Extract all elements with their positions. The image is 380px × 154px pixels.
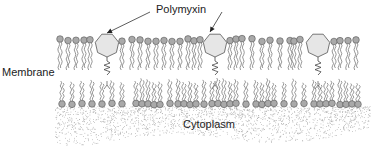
stipple-dot [286, 141, 287, 142]
stipple-dot [101, 134, 102, 135]
stipple-dot [91, 123, 92, 124]
stipple-dot [136, 130, 137, 131]
stipple-dot [208, 108, 209, 109]
polymyxin-ring [306, 34, 329, 57]
lipid-tail [348, 44, 350, 68]
stipple-dot [76, 136, 77, 137]
stipple-dot [249, 112, 250, 113]
stipple-dot [334, 111, 335, 112]
stipple-dot [279, 106, 280, 107]
stipple-dot [309, 122, 310, 123]
stipple-dot [74, 126, 75, 127]
stipple-dot [210, 111, 211, 112]
stipple-dot [369, 109, 370, 110]
stipple-dot [363, 127, 364, 128]
stipple-dot [298, 125, 299, 126]
stipple-dot [180, 109, 181, 110]
stipple-dot [260, 122, 261, 123]
stipple-dot [164, 106, 165, 107]
stipple-dot [330, 116, 331, 117]
lipid-tail [148, 81, 150, 101]
lipid-tail [256, 82, 258, 101]
stipple-dot [133, 107, 134, 108]
stipple-dot [94, 111, 95, 112]
lipid-tail [294, 81, 296, 101]
stipple-dot [58, 108, 59, 109]
stipple-dot [144, 111, 145, 112]
stipple-dot [147, 125, 148, 126]
stipple-dot [362, 117, 363, 118]
lipid-head [65, 37, 72, 44]
stipple-dot [236, 109, 237, 110]
stipple-dot [247, 131, 248, 132]
stipple-dot [143, 108, 144, 109]
stipple-dot [269, 118, 270, 119]
stipple-dot [137, 131, 138, 132]
stipple-dot [101, 115, 102, 116]
stipple-dot [111, 137, 112, 138]
stipple-dot [270, 123, 271, 124]
stipple-dot [364, 123, 365, 124]
stipple-dot [317, 110, 318, 111]
stipple-dot [324, 118, 325, 119]
stipple-dot [244, 109, 245, 110]
stipple-dot [236, 108, 237, 109]
stipple-dot [159, 122, 160, 123]
stipple-dot [70, 120, 71, 121]
stipple-dot [122, 115, 123, 116]
stipple-dot [299, 114, 300, 115]
stipple-dot [297, 122, 298, 123]
stipple-dot [103, 122, 104, 123]
stipple-dot [370, 116, 371, 117]
stipple-dot [268, 117, 269, 118]
stipple-dot [111, 118, 112, 119]
lipid-head [271, 100, 278, 107]
stipple-dot [280, 116, 281, 117]
lipid-tail [236, 81, 238, 100]
stipple-dot [76, 143, 77, 144]
lipid-head [209, 100, 216, 107]
stipple-dot [289, 140, 290, 141]
stipple-dot [106, 124, 107, 125]
stipple-dot [276, 111, 277, 112]
stipple-dot [69, 114, 70, 115]
stipple-dot [87, 117, 88, 118]
stipple-dot [287, 108, 288, 109]
stipple-dot [240, 115, 241, 116]
lipid-head [181, 101, 188, 108]
stipple-dot [120, 107, 121, 108]
stipple-dot [143, 114, 144, 115]
stipple-dot [320, 131, 321, 132]
stipple-dot [314, 120, 315, 121]
stipple-dot [324, 111, 325, 112]
stipple-dot [236, 129, 237, 130]
stipple-dot [234, 108, 235, 109]
stipple-dot [68, 107, 69, 108]
stipple-dot [86, 111, 87, 112]
stipple-dot [211, 109, 212, 110]
stipple-dot [119, 134, 120, 135]
stipple-dot [178, 121, 179, 122]
stipple-dot [118, 134, 119, 135]
stipple-dot [277, 131, 278, 132]
stipple-dot [83, 130, 84, 131]
stipple-dot [314, 114, 315, 115]
stipple-dot [87, 128, 88, 129]
stipple-dot [65, 138, 66, 139]
stipple-dot [286, 133, 287, 134]
stipple-dot [279, 120, 280, 121]
stipple-dot [242, 116, 243, 117]
stipple-dot [273, 114, 274, 115]
stipple-dot [89, 120, 90, 121]
stipple-dot [266, 141, 267, 142]
stipple-dot [354, 119, 355, 120]
stipple-dot [90, 119, 91, 120]
stipple-dot [83, 112, 84, 113]
lipid-tail [304, 85, 306, 101]
stipple-dot [110, 140, 111, 141]
stipple-dot [328, 125, 329, 126]
stipple-dot [71, 112, 72, 113]
stipple-dot [285, 111, 286, 112]
stipple-dot [59, 124, 60, 125]
stipple-dot [270, 108, 271, 109]
